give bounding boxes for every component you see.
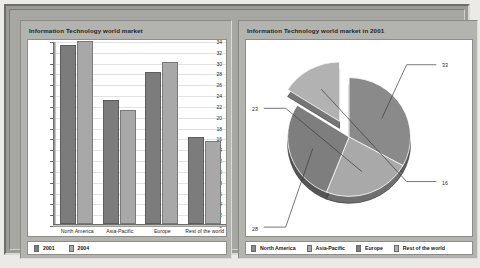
bar [103, 100, 119, 224]
bar [60, 45, 76, 224]
bar-chart-legend: 20012004 [27, 241, 227, 255]
legend-swatch [356, 245, 361, 252]
legend-item: North America [251, 245, 296, 252]
legend-label: 2001 [43, 245, 55, 251]
legend-swatch [69, 245, 74, 252]
legend-label: Asia-Pacific [316, 245, 345, 251]
outer-frame-inner: Information Technology world market 0246… [9, 9, 465, 250]
bar [162, 62, 178, 224]
legend-label: Europe [365, 245, 383, 251]
bar-chart-panel: Information Technology world market 0246… [20, 20, 232, 259]
outer-frame: Information Technology world market 0246… [4, 4, 470, 255]
legend-item: 2004 [69, 245, 90, 252]
legend-item: Europe [356, 245, 383, 252]
pie-chart-legend: North AmericaAsia-PacificEuropeRest of t… [245, 241, 473, 255]
legend-label: Rest of the world [403, 245, 445, 251]
legend-item: Asia-Pacific [307, 245, 345, 252]
x-axis-category-label: Asia-Pacific [106, 228, 133, 234]
pie-chart-panel: Information Technology world market in 2… [238, 20, 478, 259]
x-axis-category-label: North America [61, 228, 94, 234]
bar [188, 137, 204, 224]
pie-chart-title: Information Technology world market in 2… [243, 25, 473, 37]
legend-label: North America [260, 245, 296, 251]
bar-chart-bars [56, 42, 224, 224]
pie-data-label: 16 [442, 180, 448, 186]
x-axis-category-label: Europe [154, 228, 171, 234]
bar [205, 141, 221, 224]
x-axis-line [53, 224, 226, 227]
pie-chart-plot-area: 33232816 [245, 39, 473, 237]
pie-data-label: 23 [252, 106, 258, 112]
bar [77, 41, 93, 224]
legend-item: Rest of the world [394, 245, 445, 252]
screenshot-root: Information Technology world market 0246… [0, 0, 480, 268]
legend-swatch [307, 245, 312, 252]
bar-chart-plot-area: 0246810121416182022242628303234 North Am… [27, 39, 227, 237]
x-axis-category-label: Rest of the world [185, 228, 224, 234]
bar-chart-title: Information Technology world market [25, 25, 227, 37]
pie-chart-graphic [246, 40, 472, 236]
bar [120, 110, 136, 224]
pie-data-label: 28 [252, 226, 258, 232]
legend-swatch [34, 245, 39, 252]
legend-swatch [394, 245, 399, 252]
legend-swatch [251, 245, 256, 252]
pie-data-label: 33 [442, 62, 448, 68]
bar [145, 72, 161, 224]
legend-item: 2001 [34, 245, 55, 252]
legend-label: 2004 [78, 245, 90, 251]
